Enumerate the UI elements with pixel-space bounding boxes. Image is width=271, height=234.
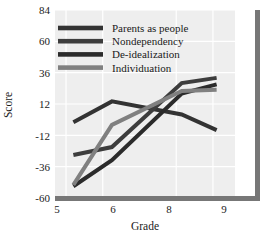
legend-label-de-idealization: De-idealization <box>112 48 180 60</box>
x-tick-6: 6 <box>110 203 116 215</box>
x-tick-8: 8 <box>166 203 172 215</box>
y-axis-title: Score <box>2 92 14 118</box>
legend-swatch-nondependency <box>58 39 103 44</box>
chart-figure: 84 60 36 12 -12 -36 -60 5 6 8 9 Grade Sc… <box>0 0 271 234</box>
y-tick-60: 60 <box>39 35 51 47</box>
x-tick-9: 9 <box>221 203 227 215</box>
legend-label-parents-as-people: Parents as people <box>112 22 188 34</box>
y-tick-36: 36 <box>39 67 51 79</box>
line-chart: 84 60 36 12 -12 -36 -60 5 6 8 9 Grade Sc… <box>0 0 271 234</box>
y-tick-12: 12 <box>39 98 50 110</box>
x-axis-title: Grade <box>131 220 159 232</box>
y-tick-neg36: -36 <box>35 161 50 173</box>
legend-swatch-individuation <box>58 65 103 70</box>
y-tick-neg60: -60 <box>35 192 50 204</box>
legend-swatch-de-idealization <box>58 52 103 57</box>
y-tick-84: 84 <box>39 4 51 16</box>
y-tick-neg12: -12 <box>35 130 50 142</box>
legend-swatch-parents-as-people <box>58 26 103 31</box>
x-tick-5: 5 <box>54 203 60 215</box>
x-axis-tick-labels: 5 6 8 9 <box>54 203 227 215</box>
legend-label-nondependency: Nondependency <box>112 35 184 47</box>
legend-label-individuation: Individuation <box>112 62 172 74</box>
y-axis-tick-labels: 84 60 36 12 -12 -36 -60 <box>35 4 50 204</box>
